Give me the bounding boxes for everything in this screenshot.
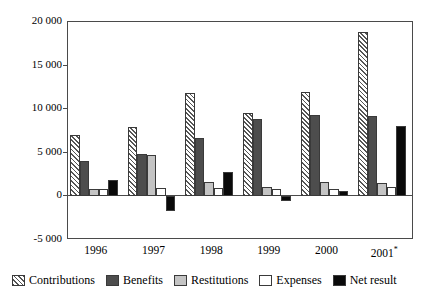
legend-label: Restitutions <box>191 274 248 287</box>
legend-swatch-icon <box>333 275 346 286</box>
chart-legend: ContributionsBenefitsRestitutionsExpense… <box>12 270 422 290</box>
y-axis: 20 00015 00010 0005 0000-5 000 <box>0 0 62 298</box>
legend-item[interactable]: Contributions <box>12 274 95 287</box>
bar <box>387 187 397 197</box>
bar <box>377 183 387 196</box>
bar <box>108 180 118 197</box>
bar <box>272 189 282 197</box>
x-tick-label: 1996 <box>67 243 125 257</box>
y-tick-mark <box>63 152 68 153</box>
y-tick-label: -5 000 <box>4 233 62 244</box>
bar <box>214 188 224 197</box>
legend-swatch-icon <box>259 275 272 286</box>
legend-label: Expenses <box>276 274 321 287</box>
x-tick-label: 2000 <box>298 243 356 257</box>
bar <box>137 154 147 197</box>
bar <box>195 138 205 196</box>
legend-item[interactable]: Expenses <box>259 274 321 287</box>
y-tick-label: 15 000 <box>4 59 62 70</box>
legend-swatch-icon <box>106 275 119 286</box>
y-tick-label: 10 000 <box>4 102 62 113</box>
legend-swatch-icon <box>174 275 187 286</box>
bar <box>329 189 339 197</box>
bar <box>262 187 272 197</box>
legend-item[interactable]: Benefits <box>106 274 163 287</box>
legend-item[interactable]: Restitutions <box>174 274 248 287</box>
bar <box>185 93 195 197</box>
bar <box>89 189 99 197</box>
x-tick-label-asterisk: * <box>394 245 398 254</box>
bar <box>253 119 263 197</box>
legend-label: Net result <box>350 274 397 287</box>
bar <box>301 92 311 197</box>
bar <box>310 115 320 196</box>
plot-area <box>67 21 413 239</box>
y-tick-label: 5 000 <box>4 146 62 157</box>
y-tick-mark <box>63 195 68 196</box>
bar <box>99 189 109 196</box>
bar <box>243 113 253 197</box>
bar-chart: 20 00015 00010 0005 0000-5 000 199619971… <box>0 0 429 298</box>
bar <box>147 155 157 197</box>
y-tick-mark <box>63 65 68 66</box>
bar <box>320 182 330 196</box>
bar <box>166 196 176 211</box>
bar <box>396 126 406 197</box>
legend-label: Contributions <box>29 274 95 287</box>
x-tick-label: 1999 <box>240 243 298 257</box>
bar <box>368 116 378 196</box>
x-tick-label: 1997 <box>125 243 183 257</box>
y-tick-mark <box>63 108 68 109</box>
bar <box>70 135 80 196</box>
bar <box>128 127 138 197</box>
bar <box>339 191 349 196</box>
y-tick-label: 0 <box>4 189 62 200</box>
bar <box>223 172 233 196</box>
bar <box>156 188 166 197</box>
legend-label: Benefits <box>123 274 163 287</box>
bar <box>281 196 291 200</box>
x-tick-label: 2001* <box>355 243 413 260</box>
bar <box>80 161 90 197</box>
legend-item[interactable]: Net result <box>333 274 397 287</box>
bar <box>358 32 368 197</box>
legend-swatch-icon <box>12 275 25 286</box>
bar <box>204 182 214 197</box>
x-axis-labels: 199619971998199920002001* <box>67 243 413 261</box>
y-tick-label: 20 000 <box>4 15 62 26</box>
x-tick-label: 1998 <box>182 243 240 257</box>
